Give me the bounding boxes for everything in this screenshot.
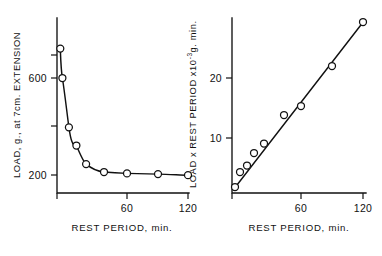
left-data-point: [155, 171, 162, 178]
right-y-axis-title: LOAD x REST PERIOD x10-3g. min.: [186, 20, 198, 188]
right-y-ticks: [226, 78, 232, 138]
right-data-point: [261, 140, 268, 147]
right-y-axis-title-main: LOAD x REST PERIOD x10: [187, 59, 198, 188]
right-data-point: [237, 169, 244, 176]
right-data-point: [251, 150, 258, 157]
right-x-ticklabel-60: 60: [295, 202, 307, 214]
left-data-point: [59, 75, 66, 82]
right-x-axis-title: REST PERIOD, min.: [248, 222, 349, 233]
right-data-point: [232, 184, 239, 191]
left-x-ticklabel-120: 120: [179, 202, 197, 214]
left-y-ticks: [51, 55, 57, 175]
left-data-point: [83, 161, 90, 168]
left-data-point: [124, 170, 131, 177]
figure-container: 600 200 60 120 LOAD, g., at 7cm. EXTENSI…: [0, 0, 382, 256]
left-x-ticklabel-60: 60: [121, 202, 133, 214]
right-y-ticklabel-20: 20: [210, 72, 222, 84]
left-panel: 600 200 60 120 LOAD, g., at 7cm. EXTENSI…: [11, 18, 197, 233]
left-data-point: [65, 124, 72, 131]
left-axis-lines: [57, 18, 189, 193]
right-data-point: [360, 19, 367, 26]
left-x-ticks: [57, 193, 188, 199]
right-data-point: [281, 112, 288, 119]
left-data-point: [101, 169, 108, 176]
right-data-point: [298, 103, 305, 110]
two-panel-scientific-figure: 600 200 60 120 LOAD, g., at 7cm. EXTENSI…: [0, 0, 382, 256]
left-data-point: [57, 45, 64, 52]
left-y-ticklabel-200: 200: [29, 169, 47, 181]
right-x-ticks: [232, 193, 363, 199]
right-data-point: [329, 63, 336, 70]
left-y-axis-title: LOAD, g., at 7cm. EXTENSION: [11, 32, 22, 178]
right-y-axis-title-exponent: -3: [186, 52, 193, 59]
right-panel: 20 10 60 120 LOAD x REST PERIOD x10-3g. …: [186, 18, 372, 233]
left-y-ticklabel-600: 600: [29, 72, 47, 84]
right-data-point: [244, 162, 251, 169]
left-x-axis-title: REST PERIOD, min.: [71, 222, 172, 233]
right-x-ticklabel-120: 120: [354, 202, 372, 214]
left-data-markers: [57, 45, 192, 179]
right-y-axis-title-tail: g. min.: [187, 20, 198, 52]
left-data-point: [73, 142, 80, 149]
left-data-curve: [60, 49, 188, 176]
right-y-ticklabel-10: 10: [210, 132, 222, 144]
